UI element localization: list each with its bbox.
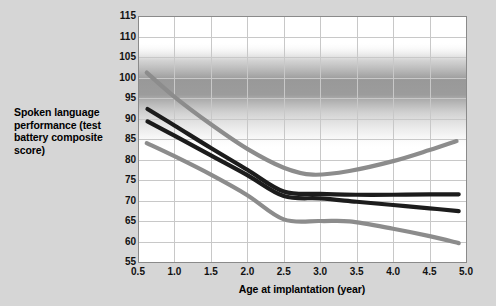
x-tick-0.5: 0.5: [118, 266, 158, 277]
x-tick-3.0: 3.0: [300, 266, 340, 277]
x-tick-5.0: 5.0: [446, 266, 486, 277]
x-tick-4.0: 4.0: [373, 266, 413, 277]
x-tick-1.5: 1.5: [191, 266, 231, 277]
x-tick-1.0: 1.0: [154, 266, 194, 277]
x-tick-2.0: 2.0: [227, 266, 267, 277]
x-tick-4.5: 4.5: [410, 266, 450, 277]
x-axis-tick-labels: 0.51.01.52.02.53.03.54.04.55.0: [0, 0, 496, 306]
x-tick-3.5: 3.5: [337, 266, 377, 277]
x-tick-2.5: 2.5: [264, 266, 304, 277]
chart-figure: Spoken language performance (test batter…: [0, 0, 496, 306]
